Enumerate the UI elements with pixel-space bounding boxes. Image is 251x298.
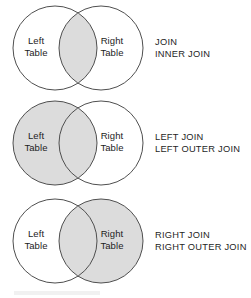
right-table-label-line2: Table <box>86 47 138 59</box>
caption-right-join-line2: RIGHT OUTER JOIN <box>155 241 247 253</box>
left-table-label-line1: Left <box>10 130 62 142</box>
right-table-label-line1: Right <box>86 228 138 240</box>
left-table-label-line2: Table <box>10 47 62 59</box>
right-table-label: Right Table <box>86 130 138 153</box>
right-table-label-line2: Table <box>86 142 138 154</box>
caption-left-join: LEFT JOIN LEFT OUTER JOIN <box>155 131 240 156</box>
venn-row-left-join: Left Table Right Table LEFT JOIN LEFT OU… <box>0 97 251 189</box>
caption-right-join-line1: RIGHT JOIN <box>155 229 247 241</box>
right-table-label: Right Table <box>86 228 138 251</box>
caption-inner-join-line2: INNER JOIN <box>155 48 210 60</box>
venn-row-inner-join: Left Table Right Table JOIN INNER JOIN <box>0 2 251 94</box>
left-table-label: Left Table <box>10 35 62 58</box>
left-table-label-line1: Left <box>10 35 62 47</box>
venn-row-right-join: Left Table Right Table RIGHT JOIN RIGHT … <box>0 195 251 287</box>
left-table-label-line2: Table <box>10 240 62 252</box>
right-table-label: Right Table <box>86 35 138 58</box>
left-table-label-line2: Table <box>10 142 62 154</box>
caption-inner-join-line1: JOIN <box>155 36 210 48</box>
caption-inner-join: JOIN INNER JOIN <box>155 36 210 61</box>
right-table-label-line1: Right <box>86 35 138 47</box>
caption-left-join-line2: LEFT OUTER JOIN <box>155 143 240 155</box>
caption-right-join: RIGHT JOIN RIGHT OUTER JOIN <box>155 229 247 254</box>
scan-artifact <box>14 291 100 295</box>
caption-left-join-line1: LEFT JOIN <box>155 131 240 143</box>
left-table-label: Left Table <box>10 130 62 153</box>
left-table-label-line1: Left <box>10 228 62 240</box>
sql-join-venn-diagram: Left Table Right Table JOIN INNER JOIN L… <box>0 0 251 298</box>
right-table-label-line1: Right <box>86 130 138 142</box>
right-table-label-line2: Table <box>86 240 138 252</box>
left-table-label: Left Table <box>10 228 62 251</box>
